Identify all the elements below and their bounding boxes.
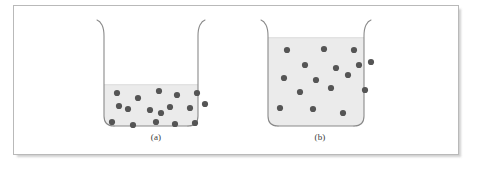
figure-content: (a) (13, 5, 459, 155)
particle (109, 119, 115, 125)
particle (333, 65, 339, 71)
caption-a: (a) (91, 132, 221, 142)
particle (202, 101, 208, 107)
beaker-a-drawing (91, 10, 221, 150)
particle (158, 110, 164, 116)
caption-b: (b) (255, 132, 385, 142)
beaker-panel-b: (b) (255, 10, 385, 150)
particle (156, 88, 162, 94)
particle (192, 120, 198, 126)
particle (297, 89, 303, 95)
particle (130, 122, 136, 128)
particle (310, 106, 316, 112)
particle (340, 110, 346, 116)
particle (284, 47, 290, 53)
particle (345, 72, 351, 78)
beaker-b-drawing (255, 10, 385, 150)
particle (135, 95, 141, 101)
particle (313, 77, 319, 83)
particle (187, 105, 193, 111)
particle (114, 90, 120, 96)
particle (174, 92, 180, 98)
particle (116, 103, 122, 109)
particle (172, 121, 178, 127)
particle (351, 47, 357, 53)
particle (328, 85, 334, 91)
particle (147, 107, 153, 113)
particle (194, 90, 200, 96)
particle (356, 62, 362, 68)
particle (362, 87, 368, 93)
particle (125, 106, 131, 112)
particle (321, 46, 327, 52)
figure-canvas: (a) (0, 0, 477, 172)
particle (368, 59, 374, 65)
beaker-panel-a: (a) (91, 10, 221, 150)
particle (167, 104, 173, 110)
particle (277, 105, 283, 111)
particle (281, 75, 287, 81)
particle (153, 119, 159, 125)
particle (302, 62, 308, 68)
